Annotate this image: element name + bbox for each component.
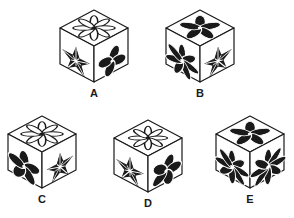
cube-c-top-symbol-flower-thin [21, 122, 63, 147]
cube-drawing-d [110, 116, 186, 196]
cube-option-b[interactable]: B [162, 6, 238, 100]
cube-option-e[interactable]: E [212, 112, 288, 206]
cube-label-b: B [162, 87, 238, 100]
cube-d-top-symbol-flower-thin [129, 126, 168, 149]
cube-label-e: E [212, 193, 288, 206]
cube-drawing-b [162, 6, 238, 86]
cube-option-a[interactable]: A [56, 6, 132, 100]
cube-label-c: C [4, 193, 80, 206]
cube-drawing-a [56, 6, 132, 86]
cube-choices-panel: A [0, 0, 294, 218]
cube-label-a: A [56, 87, 132, 100]
cube-drawing-e [212, 112, 288, 192]
cube-a-top-symbol-flower-thin [73, 16, 115, 41]
cube-option-d[interactable]: D [110, 116, 186, 210]
cube-option-c[interactable]: C [4, 112, 80, 206]
cube-label-d: D [110, 197, 186, 210]
cube-drawing-c [4, 112, 80, 192]
